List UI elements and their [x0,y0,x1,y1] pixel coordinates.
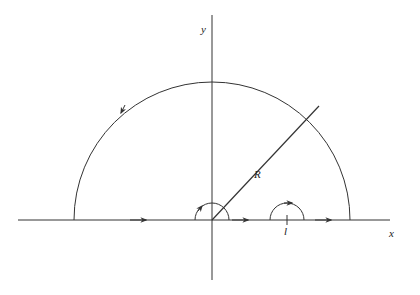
radius-line [212,106,319,220]
x-axis-label: x [389,227,394,239]
origin-arc-arrow-icon [198,206,202,211]
contour-diagram [0,0,420,295]
pole-label: l [284,225,287,237]
y-axis-label: y [201,23,206,35]
arc-direction-arrow-icon [121,105,125,113]
radius-label: R [254,168,261,180]
